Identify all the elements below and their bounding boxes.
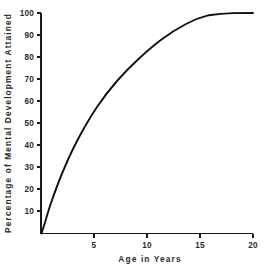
y-tick-label-20: 20: [24, 185, 34, 194]
chart-canvas: 100 90 80 70 60 50 40 30 20 10 5 10 15 2…: [0, 0, 267, 271]
y-tick-label-80: 80: [24, 53, 34, 62]
y-tick-label-10: 10: [24, 207, 34, 216]
figure-container: 100 90 80 70 60 50 40 30 20 10 5 10 15 2…: [0, 0, 267, 271]
y-tick-label-50: 50: [24, 119, 34, 128]
x-tick-label-20: 20: [248, 241, 258, 250]
y-tick-label-30: 30: [24, 163, 34, 172]
mental-development-curve: [42, 13, 254, 234]
y-tick-label-90: 90: [24, 31, 34, 40]
x-tick-label-5: 5: [92, 241, 97, 250]
y-axis-ticks: [37, 13, 41, 211]
y-tick-label-40: 40: [24, 141, 34, 150]
y-tick-label-60: 60: [24, 97, 34, 106]
x-axis-ticks: [94, 234, 253, 239]
y-tick-label-70: 70: [24, 75, 34, 84]
x-tick-label-15: 15: [195, 241, 205, 250]
x-tick-label-10: 10: [142, 241, 152, 250]
y-tick-label-100: 100: [20, 9, 35, 18]
y-axis-title: Percentage of Mental Development Attaine…: [3, 13, 13, 233]
partial-caption-text: [0, 262, 267, 271]
